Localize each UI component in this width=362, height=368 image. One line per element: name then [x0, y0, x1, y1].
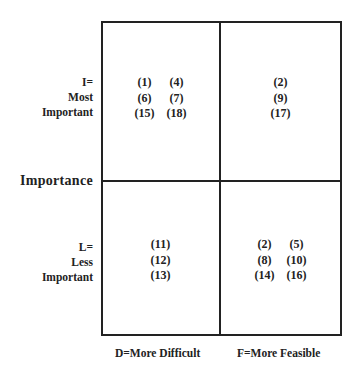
quadrant-most-important-more-feasible: (2) (9) (17) [221, 75, 340, 122]
x-label-more-difficult: D=More Difficult [115, 347, 200, 359]
item-number: (2) [251, 237, 279, 253]
item-row: (2) (5) [221, 237, 340, 253]
item-number: (5) [283, 237, 311, 253]
y-label-line: Less [42, 255, 93, 270]
y-label-line: Important [42, 105, 93, 120]
item-number: (16) [283, 268, 311, 284]
item-number: (9) [221, 91, 340, 107]
item-number: (15) [131, 106, 159, 122]
item-row: (6) (7) [102, 91, 219, 107]
item-number: (8) [251, 253, 279, 269]
item-number: (10) [283, 253, 311, 269]
item-number: (11) [102, 237, 219, 253]
item-number: (7) [163, 91, 191, 107]
item-number: (2) [221, 75, 340, 91]
x-label-more-feasible: F=More Feasible [237, 347, 320, 359]
item-row: (14) (16) [221, 268, 340, 284]
item-row: (1) (4) [102, 75, 219, 91]
y-axis-title: Importance [20, 173, 93, 189]
horizontal-divider [101, 180, 342, 182]
item-row: (8) (10) [221, 253, 340, 269]
item-number: (18) [163, 106, 191, 122]
y-label-line: I= [42, 75, 93, 90]
matrix-frame [101, 21, 342, 336]
item-number: (12) [102, 253, 219, 269]
y-label-line: Most [42, 90, 93, 105]
vertical-divider [219, 21, 221, 336]
y-label-less-important: L= Less Important [42, 240, 93, 285]
y-label-line: L= [42, 240, 93, 255]
y-label-line: Important [42, 270, 93, 285]
item-row: (15) (18) [102, 106, 219, 122]
item-number: (14) [251, 268, 279, 284]
item-number: (4) [163, 75, 191, 91]
quadrant-less-important-more-feasible: (2) (5) (8) (10) (14) (16) [221, 237, 340, 284]
y-label-most-important: I= Most Important [42, 75, 93, 120]
quadrant-less-important-more-difficult: (11) (12) (13) [102, 237, 219, 284]
item-number: (6) [131, 91, 159, 107]
quadrant-most-important-more-difficult: (1) (4) (6) (7) (15) (18) [102, 75, 219, 122]
item-number: (17) [221, 106, 340, 122]
item-number: (13) [102, 268, 219, 284]
item-number: (1) [131, 75, 159, 91]
